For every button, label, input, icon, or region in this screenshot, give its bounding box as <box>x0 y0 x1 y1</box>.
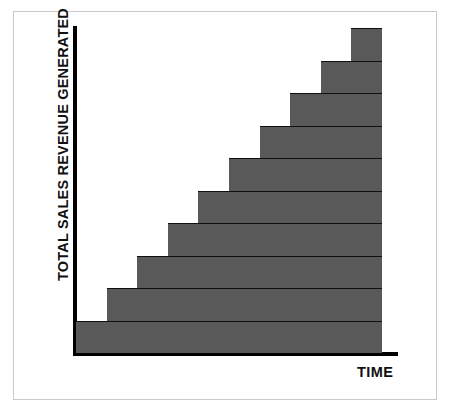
chart-step-bar <box>76 321 382 354</box>
y-axis-label: TOTAL SALES REVENUE GENERATED <box>55 31 71 281</box>
plot-area <box>76 28 382 353</box>
x-axis-label: TIME <box>357 364 393 380</box>
y-axis-line <box>73 26 77 356</box>
chart-canvas: TOTAL SALES REVENUE GENERATED TIME <box>0 0 451 413</box>
